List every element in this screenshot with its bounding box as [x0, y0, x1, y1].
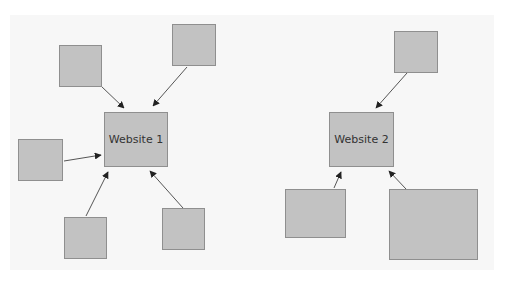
edge-arrow-w1-top-left [101, 86, 124, 108]
edge-arrow-w2-bottom-left [334, 172, 341, 188]
spoke-node-w2-bottom-right [389, 189, 478, 260]
hub-node-website2: Website 2 [329, 112, 394, 167]
edge-arrow-w2-bottom-right [389, 171, 406, 189]
node-label: Website 1 [109, 133, 163, 146]
edge-arrow-w2-top [376, 73, 407, 108]
edge-arrow-w1-left [64, 155, 101, 161]
node-label: Website 2 [334, 133, 388, 146]
edge-arrow-w1-bottom-right [150, 171, 183, 208]
spoke-node-w1-bottom-right [162, 208, 205, 250]
spoke-node-w1-bottom-left [64, 217, 107, 259]
hub-node-website1: Website 1 [104, 112, 168, 167]
spoke-node-w1-top-left [59, 45, 102, 87]
spoke-node-w2-bottom-left [285, 189, 346, 238]
spoke-node-w1-left [18, 139, 63, 181]
edge-arrow-w1-top-right [153, 67, 187, 106]
edge-arrow-w1-bottom-left [86, 172, 108, 216]
spoke-node-w2-top [394, 31, 438, 73]
spoke-node-w1-top-right [172, 24, 216, 66]
